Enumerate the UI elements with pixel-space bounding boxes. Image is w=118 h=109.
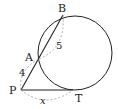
label-P: P (9, 84, 17, 97)
dashed-arc-PT (21, 90, 73, 100)
label-B: B (58, 2, 66, 15)
length-AB: 5 (56, 40, 62, 51)
label-T: T (75, 92, 83, 105)
diagram-canvas: B A P T 5 4 x (0, 0, 118, 109)
length-PT: x (40, 95, 46, 106)
circle (38, 16, 112, 90)
label-A: A (24, 51, 34, 64)
length-PA: 4 (19, 67, 25, 78)
